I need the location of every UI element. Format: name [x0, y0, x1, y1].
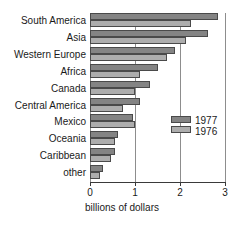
bar-1977-other — [90, 165, 103, 172]
category-label-oceania: Oceania — [0, 133, 86, 145]
chart-row: Canada — [0, 81, 244, 98]
bar-1977-south-america — [90, 13, 218, 20]
x-tick-label-1: 1 — [125, 187, 145, 199]
category-label-caribbean: Caribbean — [0, 150, 86, 162]
legend-swatch-1976 — [171, 126, 191, 133]
bar-1976-south-america — [90, 20, 191, 27]
x-tick-label-0: 0 — [80, 187, 100, 199]
bar-1977-oceania — [90, 131, 118, 138]
bar-1976-asia — [90, 37, 186, 44]
x-tick-label-3: 3 — [215, 187, 235, 199]
bar-1976-caribbean — [90, 155, 111, 162]
x-axis-title: billions of dollars — [0, 202, 244, 214]
bar-1977-central-america — [90, 98, 140, 105]
x-tick-mark-0 — [90, 182, 91, 186]
bar-1977-mexico — [90, 114, 133, 121]
legend-label-1977: 1977 — [195, 115, 217, 126]
bar-chart: South AmericaAsiaWestern EuropeAfricaCan… — [0, 0, 244, 230]
bar-1976-mexico — [90, 121, 135, 128]
category-label-central-america: Central America — [0, 100, 86, 112]
category-label-western-europe: Western Europe — [0, 49, 86, 61]
bar-1976-other — [90, 172, 100, 179]
chart-row: Caribbean — [0, 148, 244, 165]
bar-1976-africa — [90, 71, 140, 78]
category-label-asia: Asia — [0, 32, 86, 44]
x-tick-mark-1 — [135, 182, 136, 186]
bar-1977-caribbean — [90, 148, 115, 155]
chart-row: Africa — [0, 64, 244, 81]
legend-swatch-1977 — [171, 116, 191, 123]
x-axis-line — [90, 182, 226, 183]
bar-1976-oceania — [90, 138, 115, 145]
chart-row: Asia — [0, 30, 244, 47]
bar-1976-canada — [90, 88, 135, 95]
chart-legend: 1977 1976 — [171, 115, 241, 143]
x-tick-mark-2 — [180, 182, 181, 186]
bar-1977-canada — [90, 81, 150, 88]
bar-1976-western-europe — [90, 54, 167, 61]
chart-row: South America — [0, 13, 244, 30]
category-label-mexico: Mexico — [0, 116, 86, 128]
category-label-canada: Canada — [0, 83, 86, 95]
bar-1976-central-america — [90, 105, 123, 112]
category-label-africa: Africa — [0, 66, 86, 78]
bar-1977-western-europe — [90, 47, 175, 54]
chart-row: Western Europe — [0, 47, 244, 64]
chart-row: Central America — [0, 98, 244, 115]
legend-label-1976: 1976 — [195, 126, 217, 137]
x-tick-label-2: 2 — [170, 187, 190, 199]
bar-1977-asia — [90, 30, 208, 37]
chart-row: other — [0, 165, 244, 182]
x-tick-mark-3 — [225, 182, 226, 186]
category-label-south-america: South America — [0, 15, 86, 27]
bar-1977-africa — [90, 64, 158, 71]
category-label-other: other — [0, 167, 86, 179]
